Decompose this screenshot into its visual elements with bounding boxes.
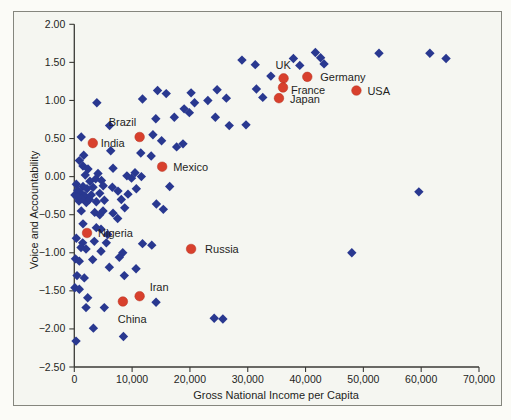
data-point-diamond [77,132,86,141]
country-label-iran: Iran [150,281,169,293]
data-point-diamond [89,323,98,332]
country-dot-uk [279,74,289,84]
data-point-diamond [152,199,161,208]
y-tick-label: 0.00 [45,170,66,182]
data-point-diamond [218,314,227,323]
data-point-diamond [295,61,304,70]
data-point-diamond [414,187,423,196]
data-point-diamond [148,130,157,139]
data-point-diamond [266,71,275,80]
data-point-diamond [92,98,101,107]
x-tick-label: 30,000 [232,373,264,385]
data-point-diamond [237,55,246,64]
data-point-diamond [258,93,267,102]
data-point-diamond [120,271,129,280]
country-label-nigeria: Nigeria [98,227,134,239]
data-point-diamond [374,49,383,58]
x-tick-label: 60,000 [405,373,437,385]
country-label-india: India [101,137,126,149]
country-dot-china [118,297,128,307]
data-point-diamond [119,332,128,341]
country-dot-germany [302,72,312,82]
data-point-diamond [71,336,80,345]
y-tick-label: −0.50 [39,208,66,220]
data-point-diamond [203,96,212,105]
data-point-diamond [123,189,132,198]
data-point-diamond [159,205,168,214]
data-point-diamond [157,136,166,145]
y-tick-label: 1.00 [45,94,66,106]
data-point-diamond [138,239,147,248]
data-point-diamond [100,196,109,205]
country-dot-usa [352,86,362,96]
data-point-diamond [252,84,261,93]
data-point-diamond [212,85,221,94]
data-point-diamond [190,98,199,107]
data-point-diamond [225,121,234,130]
data-point-diamond [78,219,87,228]
data-point-diamond [222,93,231,102]
x-tick-label: 40,000 [289,373,321,385]
scanned-book-page: { "colors": { "page_bg": "#fbfbf7", "fig… [0,0,511,420]
data-point-diamond [146,151,155,160]
data-point-diamond [105,263,114,272]
data-point-diamond [147,240,156,249]
data-point-diamond [210,314,219,323]
country-label-brazil: Brazil [109,116,137,128]
x-tick-label: 20,000 [174,373,206,385]
data-point-diamond [83,293,92,302]
data-point-diamond [100,303,109,312]
country-dot-france [278,83,288,93]
data-point-diamond [117,195,126,204]
data-point-diamond [88,255,97,264]
data-point-diamond [347,248,356,257]
country-dot-india [88,138,98,148]
country-label-usa: USA [367,85,390,97]
data-point-diamond [441,54,450,63]
y-tick-label: 0.50 [45,132,66,144]
y-tick-label: −2.50 [39,361,66,373]
x-tick-label: 70,000 [463,373,495,385]
data-point-diamond [165,182,174,191]
data-point-diamond [186,88,195,97]
data-point-diamond [96,247,105,256]
data-point-diamond [211,113,220,122]
country-label-japan: Japan [290,93,320,105]
data-point-diamond [131,264,140,273]
x-tick-label: 0 [71,373,77,385]
scatter-figure: 010,00020,00030,00040,00050,00060,00070,… [13,11,502,406]
country-dot-japan [274,93,284,103]
y-tick-label: −1.50 [39,284,66,296]
data-point-diamond [102,238,111,247]
data-point-diamond [153,86,162,95]
data-point-diamond [80,273,89,282]
country-label-china: China [118,313,148,325]
data-point-diamond [151,114,160,123]
y-axis-title: Voice and Accountability [27,100,41,320]
y-tick-label: −1.00 [39,246,66,258]
data-point-diamond [81,303,90,312]
country-label-russia: Russia [205,243,240,255]
data-point-diamond [162,89,171,98]
data-point-diamond [241,120,250,129]
y-tick-label: 2.00 [45,18,66,30]
x-tick-label: 50,000 [347,373,379,385]
data-point-diamond [120,203,129,212]
data-point-diamond [170,113,179,122]
x-axis-title: Gross National Income per Capita [126,388,426,403]
y-tick-label: −2.00 [39,322,66,334]
data-point-diamond [151,298,160,307]
country-label-uk: UK [276,59,292,71]
country-label-mexico: Mexico [173,161,208,173]
data-point-diamond [92,197,101,206]
country-label-germany: Germany [320,71,366,83]
y-tick-label: 1.50 [45,56,66,68]
country-dot-russia [186,244,196,254]
x-tick-label: 10,000 [116,373,148,385]
data-point-diamond [77,206,86,215]
data-point-diamond [251,60,260,69]
country-dot-mexico [157,162,167,172]
scatter-plot-canvas: 010,00020,00030,00040,00050,00060,00070,… [14,12,501,405]
data-point-diamond [138,94,147,103]
data-point-diamond [136,148,145,157]
